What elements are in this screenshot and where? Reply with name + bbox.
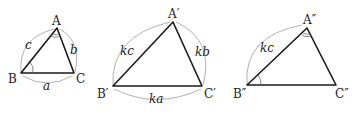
- vertex-label-b-prime: B′: [97, 87, 109, 101]
- angle-mark-b: [30, 62, 33, 73]
- diagram-canvas: A B C c b a A′ B′ C′ kc kb ka A″ B″ C″ k…: [0, 0, 359, 124]
- arc-side-kc-double-prime: [247, 25, 302, 85]
- side-label-b: b: [70, 43, 78, 57]
- side-label-ka: ka: [149, 92, 163, 106]
- vertex-label-b: B: [8, 72, 17, 86]
- side-label-kc: kc: [120, 44, 134, 58]
- vertex-label-a-double-prime: A″: [302, 13, 317, 27]
- angle-mark-b-double-prime: [258, 75, 261, 85]
- vertex-label-a-prime: A′: [167, 7, 180, 21]
- triangle-a2b2c2-edges: [247, 28, 336, 85]
- vertex-label-a: A: [51, 14, 61, 28]
- side-label-kc-double-prime: kc: [260, 41, 274, 55]
- similar-triangles-diagram: A B C c b a A′ B′ C′ kc kb ka A″ B″ C″ k…: [0, 0, 359, 124]
- triangle-a2b2c2: A″ B″ C″ kc: [233, 13, 349, 101]
- triangle-a1b1c1: A′ B′ C′ kc kb ka: [97, 7, 216, 106]
- vertex-label-c-prime: C′: [204, 87, 216, 101]
- vertex-label-c-double-prime: C″: [335, 87, 349, 101]
- side-label-kb: kb: [195, 45, 210, 59]
- side-label-a: a: [43, 79, 50, 93]
- triangle-abc: A B C c b a: [8, 14, 85, 93]
- side-label-c: c: [25, 38, 32, 52]
- vertex-label-c: C: [76, 72, 85, 86]
- vertex-label-b-double-prime: B″: [233, 87, 247, 101]
